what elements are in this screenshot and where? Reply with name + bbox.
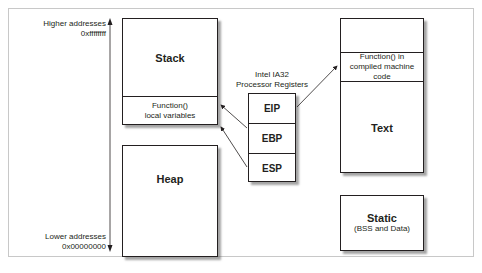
esp-arrow [221,127,247,167]
connector-arrows [0,0,482,273]
axis-up-arrow-icon [108,18,113,25]
eip-arrow [297,66,337,107]
ebp-arrow [221,105,247,128]
axis-down-arrow-icon [108,245,113,252]
